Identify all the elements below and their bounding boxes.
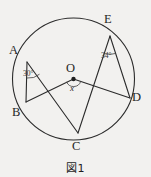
center-label-o: O — [66, 62, 75, 75]
center-point-dot — [71, 77, 75, 81]
geometry-figure: A B C D E O 30° 34° x 図1 — [0, 0, 151, 177]
chord-a-b — [26, 62, 27, 102]
vertex-label-d: D — [132, 91, 141, 104]
radius-o-b — [26, 79, 74, 102]
angle-label-x: x — [70, 84, 74, 93]
figure-caption: 図1 — [0, 159, 151, 175]
angle-label-e: 34° — [101, 52, 112, 60]
radius-o-d — [74, 79, 131, 98]
vertex-label-e: E — [104, 13, 112, 26]
vertex-label-c: C — [72, 140, 80, 153]
chord-e-d — [110, 36, 130, 98]
vertex-label-a: A — [9, 44, 18, 57]
vertex-label-b: B — [12, 106, 20, 119]
angle-label-a: 30° — [23, 70, 34, 78]
